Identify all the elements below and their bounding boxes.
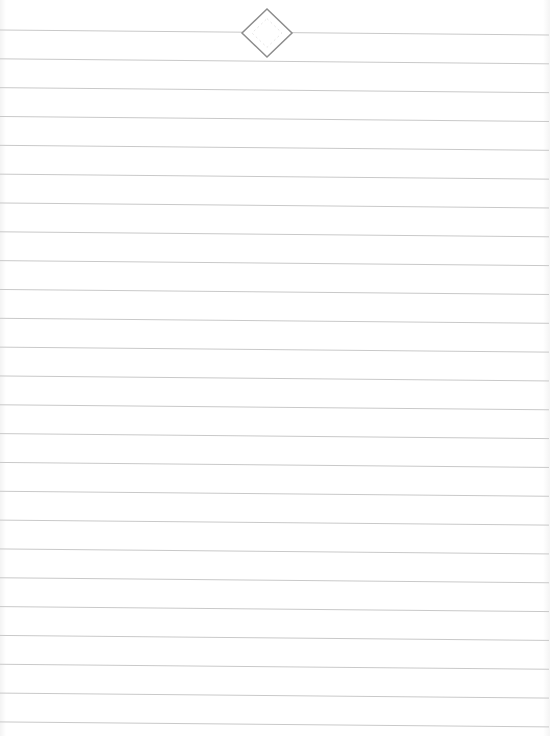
lined-paper-page [0, 0, 550, 736]
diamond-ornament-icon [0, 0, 550, 736]
diamond-outline [242, 9, 292, 57]
